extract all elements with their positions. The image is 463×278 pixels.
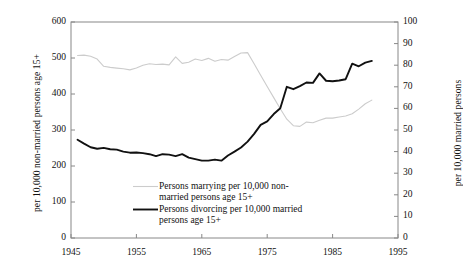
y2-tick-label-60: 60 (403, 102, 437, 112)
x-tick-label-1945: 1945 (51, 247, 91, 257)
x-tick-label-1955: 1955 (116, 247, 156, 257)
y2-tick-label-20: 20 (403, 189, 437, 199)
y-tick-label-400: 400 (32, 88, 66, 98)
y2-tick-label-100: 100 (403, 16, 437, 26)
y-tick-label-200: 200 (32, 160, 66, 170)
y2-tick-label-70: 70 (403, 81, 437, 91)
y-tick-label-0: 0 (32, 232, 66, 242)
y-tick-label-600: 600 (32, 16, 66, 26)
series-line-divorcing (78, 61, 372, 161)
legend-entry-marrying-line2: married persons age 15+ (159, 192, 253, 204)
y-tick-label-300: 300 (32, 124, 66, 134)
y2-tick-label-10: 10 (403, 210, 437, 220)
legend-entry-divorcing-line1: Persons divorcing per 10,000 married (159, 204, 302, 216)
x-tick-label-1975: 1975 (247, 247, 287, 257)
series-lines (78, 53, 372, 161)
legend-entry-divorcing-line2: persons age 15+ (159, 215, 221, 227)
y2-tick-label-50: 50 (403, 124, 437, 134)
y2-tick-label-0: 0 (403, 232, 437, 242)
y-tick-label-100: 100 (32, 196, 66, 206)
x-tick-label-1995: 1995 (378, 247, 418, 257)
x-tick-label-1965: 1965 (182, 247, 222, 257)
legend-swatches (133, 187, 158, 210)
y2-tick-label-90: 90 (403, 38, 437, 48)
y2-tick-label-40: 40 (403, 146, 437, 156)
y2-tick-label-80: 80 (403, 59, 437, 69)
y-tick-label-500: 500 (32, 52, 66, 62)
legend-entry-marrying-line1: Persons marrying per 10,000 non- (159, 181, 289, 193)
x-tick-label-1985: 1985 (313, 247, 353, 257)
y2-tick-label-30: 30 (403, 167, 437, 177)
series-line-marrying (78, 53, 372, 127)
